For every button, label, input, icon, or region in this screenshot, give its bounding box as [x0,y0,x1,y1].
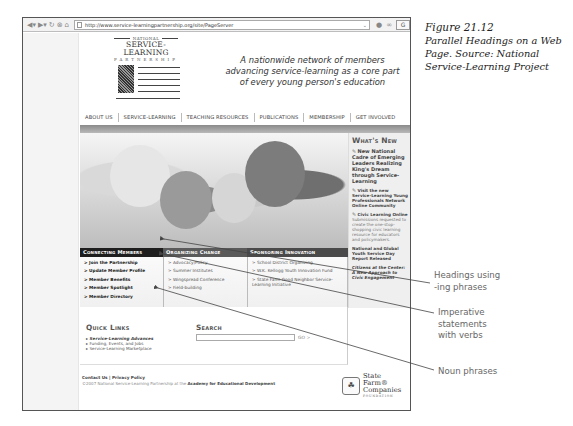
link-school-district-organizing[interactable]: > School District Organizing [252,260,347,265]
main-nav: ABOUT US SERVICE-LEARNING TEACHING RESOU… [80,110,410,124]
link-member-spotlight[interactable]: > Member Spotlight [84,285,163,290]
column-sponsoring-innovation: > School District Organizing > W.K. Kell… [247,257,348,307]
footer-links: Contact Us | Privacy Policy [82,375,145,380]
nav-teaching-resources[interactable]: TEACHING RESOURCES [182,113,255,122]
tree-icon [118,65,134,93]
figure-caption: Figure 21.12 Parallel Headings on a Web … [425,21,570,73]
url-text: http://www.service-learningpartnership.o… [85,22,233,28]
logo-national: NATIONAL [110,36,182,41]
url-bar[interactable]: http://www.service-learningpartnership.o… [74,20,370,30]
search-input[interactable] [196,334,295,341]
site-logo[interactable]: NATIONAL SERVICE-LEARNING PARTNERSHIP [110,36,182,106]
link-update-member-profile[interactable]: > Update Member Profile [84,268,163,273]
logo-partnership: PARTNERSHIP [110,57,182,63]
link-kellogg-fund[interactable]: > W.K. Kellogg Youth Innovation Fund [252,268,347,273]
back-icon[interactable]: ◀▾ [27,20,36,30]
news-item[interactable]: ✎ Visit the new Service-Learning Young P… [352,188,408,208]
stop-icon[interactable]: ⊗ [57,20,63,30]
aed-link[interactable]: Academy for Educational Development [187,381,275,386]
header-connecting-members[interactable]: Connecting Members [80,248,163,257]
nav-divider-bar [80,125,410,133]
nav-publications[interactable]: PUBLICATIONS [255,113,305,122]
annotation-imperative: Imperative statements with verbs [438,307,487,342]
forward-icon[interactable]: ▶▾ [38,20,47,30]
section-headers: Connecting Members Organizing Change Spo… [80,248,348,257]
hero-photo-children [80,133,348,248]
header-organizing-change[interactable]: Organizing Change [163,248,247,257]
browser-toolbar: ◀▾ ▶▾ ↻ ⊗ ⌂ http://www.service-learningp… [23,18,410,32]
search-engine-icon[interactable]: G [396,20,410,30]
news-item[interactable]: Citizens at the Center: A New Approach t… [352,265,408,280]
link-state-farm-initiative[interactable]: > State Farm Good Neighbor Service-Learn… [252,277,347,287]
nav-membership[interactable]: MEMBERSHIP [304,113,351,122]
bookmark-icon[interactable]: ∞ [386,20,392,30]
whats-new-title: What's New [352,136,408,145]
figure-number: Figure 21.12 [425,21,570,34]
link-summer-institutes[interactable]: > Summer Institutes [168,268,247,273]
page-icon [77,22,82,28]
page-viewport: NATIONAL SERVICE-LEARNING PARTNERSHIP A … [23,33,410,410]
quick-link[interactable]: ▸ Service-Learning Marketplace [86,346,196,351]
quick-links: Quick Links ▸ Service-Learning Advances … [86,323,196,352]
website: NATIONAL SERVICE-LEARNING PARTNERSHIP A … [80,33,410,410]
header-sponsoring-innovation[interactable]: Sponsoring Innovation [247,248,348,257]
search-title: Search [196,323,316,332]
tagline: A nationwide network of members advancin… [220,55,405,88]
quick-links-title: Quick Links [86,323,196,332]
dropdown-icon[interactable]: ⌄ [363,21,367,30]
home-icon[interactable]: ⌂ [65,20,69,30]
link-member-benefits[interactable]: > Member Benefits [84,277,163,282]
column-organizing-change: > Advocacy/Policy > Summer Institutes > … [163,257,247,307]
go-icon[interactable]: ● [376,20,382,30]
news-item[interactable]: ✎ Civic Learning Online Submissions requ… [352,212,408,242]
footer: Contact Us | Privacy Policy ©2007 Nation… [80,372,410,408]
link-member-directory[interactable]: > Member Directory [84,294,163,299]
news-item[interactable]: ✎ New National Cadre of Emerging Leaders… [352,148,408,184]
link-join-partnership[interactable]: > Join the Partnership [84,260,163,265]
link-wingspread-conference[interactable]: > Wingspread Conference [168,277,247,282]
logo-name: SERVICE-LEARNING [110,41,182,57]
browser-window: ◀▾ ▶▾ ↻ ⊗ ⌂ http://www.service-learningp… [22,17,411,411]
annotation-noun-phrases: Noun phrases [438,366,497,378]
section-columns: > Join the Partnership > Update Member P… [80,257,348,307]
nav-service-learning[interactable]: SERVICE-LEARNING [119,113,182,122]
link-advocacy-policy[interactable]: > Advocacy/Policy [168,260,247,265]
reload-icon[interactable]: ↻ [49,20,55,30]
logo-art [110,65,182,111]
state-farm-badge-icon: ☘ [342,377,360,395]
column-connecting-members: > Join the Partnership > Update Member P… [80,257,163,307]
state-farm-logo[interactable]: ☘ State Farm® Companies FOUNDATION [342,373,408,398]
contact-link[interactable]: Contact Us [82,375,108,380]
figure-caption-text: Parallel Headings on a Web Page. Source:… [425,34,570,73]
nav-get-involved[interactable]: GET INVOLVED [351,113,400,122]
nav-about-us[interactable]: ABOUT US [80,113,119,122]
privacy-link[interactable]: Privacy Policy [112,375,145,380]
news-item[interactable]: National and Global Youth Service Day Re… [352,246,408,261]
search-box: Search GO > [196,323,316,341]
copyright: ©2007 National Service-Learning Partners… [82,381,275,386]
link-field-building[interactable]: > Field-building [168,285,247,290]
go-button[interactable]: GO > [298,335,310,340]
whats-new-panel: What's New ✎ New National Cadre of Emerg… [348,133,410,308]
annotation-ing-phrases: Headings using -ing phrases [434,270,500,293]
left-gutter [23,33,79,410]
